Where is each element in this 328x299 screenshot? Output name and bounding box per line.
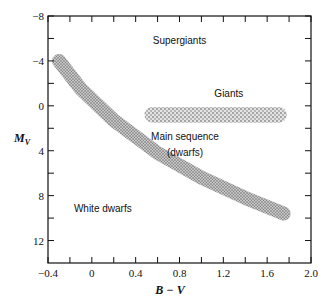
- region-label: (dwarfs): [167, 147, 203, 158]
- region-label: White dwarfs: [74, 203, 132, 214]
- region-label: Supergiants: [153, 35, 206, 46]
- giants-band: [144, 107, 286, 123]
- x-tick-label: 0: [89, 267, 95, 279]
- y-tick-label: 4: [39, 145, 45, 157]
- x-tick-label: −0.4: [38, 267, 58, 279]
- y-tick-label: 8: [39, 190, 45, 202]
- x-tick-label: 2.0: [304, 267, 318, 279]
- y-tick-label: 0: [39, 100, 45, 112]
- region-label: Giants: [214, 88, 243, 99]
- x-tick-label: 0.4: [129, 267, 143, 279]
- y-tick-label: 12: [33, 235, 44, 247]
- x-tick-label: 1.2: [216, 267, 230, 279]
- region-label: Main sequence: [151, 131, 219, 142]
- x-tick-label: 0.8: [173, 267, 187, 279]
- y-tick-label: −4: [32, 55, 44, 67]
- hr-diagram: −0.400.40.81.21.62.0−8−404812 Supergiant…: [0, 0, 328, 299]
- x-axis-title: B − V: [154, 283, 185, 297]
- y-axis-title: MV: [13, 131, 31, 147]
- y-tick-label: −8: [32, 10, 44, 22]
- axis-ticks: −0.400.40.81.21.62.0−8−404812: [32, 10, 318, 279]
- x-tick-label: 1.6: [260, 267, 274, 279]
